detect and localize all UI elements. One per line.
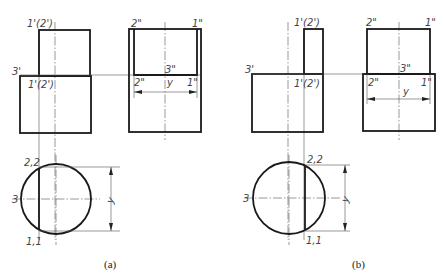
arrow-down-icon — [109, 223, 113, 231]
label-mid: 1'(2') — [294, 78, 320, 89]
panel-b: 1'(2') 1'(2') 3' 2" 1" 3" 2" 1" y — [243, 17, 436, 271]
label-top-left: 2" — [366, 17, 377, 28]
upper-block — [367, 29, 430, 74]
label-mid-right: 1" — [187, 77, 198, 88]
top-view-b: 2,2 3 1,1 y — [243, 154, 352, 246]
arrow-up-icon — [343, 165, 347, 173]
label-top: 1'(2') — [294, 17, 320, 28]
arrow-up-icon — [109, 167, 113, 175]
label-top: 1'(2') — [27, 18, 53, 29]
label-left: 3' — [245, 64, 254, 75]
side-view-a: 2" 1" 3" 2" 1" y — [129, 18, 203, 140]
dimension-label: y — [104, 194, 117, 205]
upper-block — [304, 29, 323, 74]
label-mid: 1'(2') — [28, 79, 54, 90]
label-mid-left: 2" — [134, 77, 145, 88]
label-left: 3 — [12, 194, 18, 205]
arrow-right-icon — [422, 97, 430, 101]
panel-a: 1'(2') 1'(2') 3' 2" 1" 3" 2" 1" y — [12, 18, 203, 271]
label-left: 3 — [243, 193, 249, 204]
label-mid-right: 1" — [421, 77, 432, 88]
label-mid-left: 2" — [368, 77, 379, 88]
arrow-right-icon — [189, 90, 197, 94]
projection-drawing: 1'(2') 1'(2') 3' 2" 1" 3" 2" 1" y — [0, 0, 444, 276]
side-view-b: 2" 1" 3" 2" 1" y — [363, 17, 436, 140]
label-top-right: 1" — [425, 17, 436, 28]
arrow-left-icon — [134, 90, 142, 94]
front-view-a: 1'(2') 1'(2') 3' — [12, 18, 91, 240]
dimension-label: y — [402, 86, 410, 97]
label-top: 2,2 — [24, 157, 40, 168]
label-mid-center: 3" — [165, 64, 176, 75]
upper-block — [39, 30, 90, 76]
front-view-b: 1'(2') 1'(2') 3' — [245, 17, 323, 240]
dimension-label: y — [166, 77, 174, 88]
caption-b: (b) — [352, 258, 365, 271]
label-mid-center: 3" — [400, 63, 411, 74]
label-bottom: 1,1 — [306, 235, 322, 246]
caption-a: (a) — [104, 258, 117, 271]
label-left: 3' — [12, 66, 21, 77]
arrow-down-icon — [343, 223, 347, 231]
label-top-right: 1" — [192, 18, 203, 29]
label-top-left: 2" — [131, 18, 142, 29]
arrow-left-icon — [367, 97, 375, 101]
label-top: 2,2 — [307, 154, 323, 165]
top-view-a: 2,2 3 1,1 y — [12, 155, 120, 247]
label-bottom: 1,1 — [26, 236, 42, 247]
